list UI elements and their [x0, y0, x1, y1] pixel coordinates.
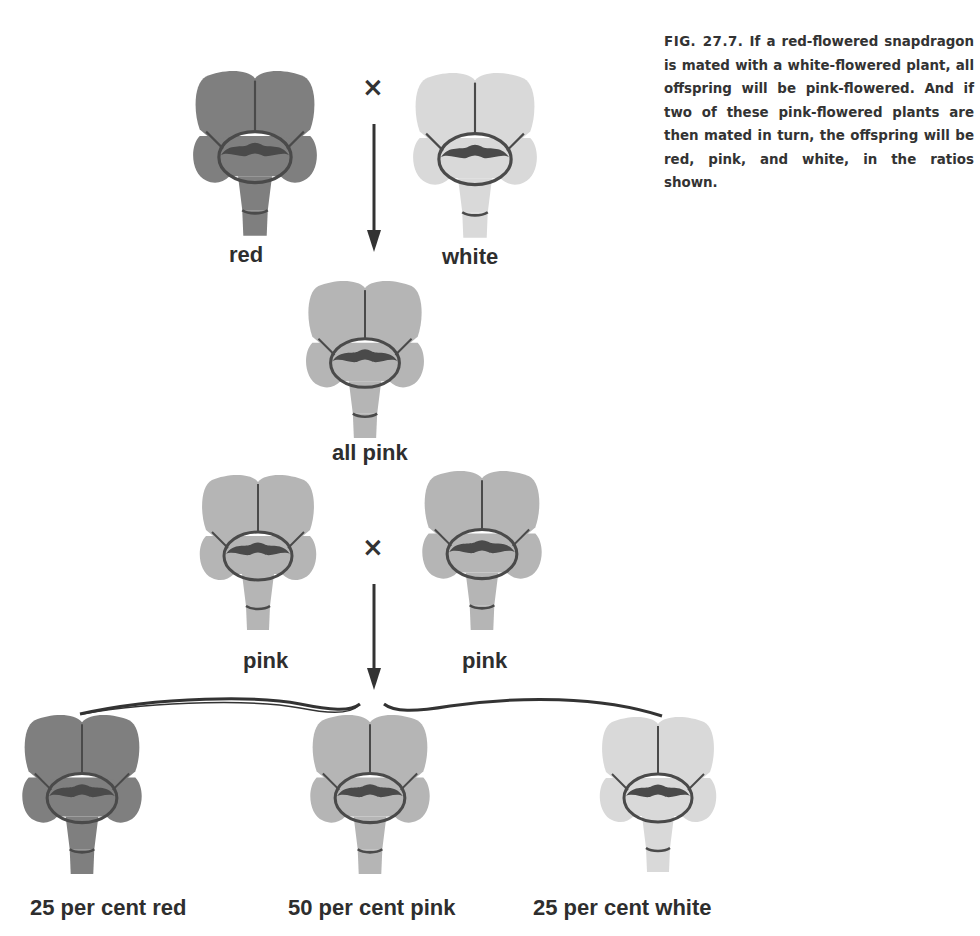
figure-caption: FIG. 27.7. If a red-flowered snapdragon … [664, 30, 974, 195]
f2-label-white: 25 per cent white [533, 895, 712, 921]
f2-pink-flower [308, 714, 432, 878]
caption-text: If a red-flowered snapdragon is mated wi… [664, 34, 974, 190]
f2-red-flower [20, 714, 144, 878]
f2-label-red: 25 per cent red [30, 895, 187, 921]
f2-label-pink: 50 per cent pink [288, 895, 456, 921]
figure-number: FIG. 27.7. [664, 34, 743, 49]
f2-white-flower [596, 716, 720, 876]
